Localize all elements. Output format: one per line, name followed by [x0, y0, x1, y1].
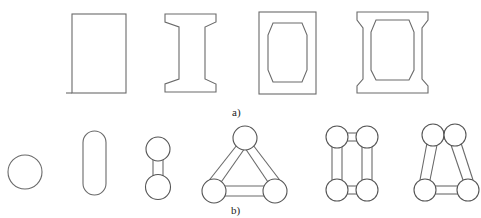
- circular-column: [8, 155, 42, 189]
- i-box-section-octagonal-void: [357, 12, 428, 93]
- panel-b: [8, 124, 479, 203]
- panel-a-label: a): [232, 107, 241, 118]
- three-column-triangle: [202, 126, 287, 203]
- box-section-octagonal-void: [259, 12, 316, 94]
- i-beam-section: [165, 14, 216, 92]
- panel-b-label: b): [231, 205, 240, 216]
- oblong-column: [83, 131, 106, 195]
- cross-section-figure: a) b): [0, 0, 481, 218]
- solid-rectangular-section: [66, 14, 126, 93]
- panel-a: [66, 12, 428, 94]
- four-column-rectangle: [326, 126, 378, 201]
- two-column-dumbbell: [146, 137, 171, 200]
- four-column-trapezoid: [414, 124, 479, 201]
